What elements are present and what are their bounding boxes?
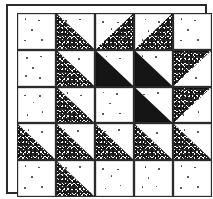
fabric-dots <box>18 51 55 86</box>
quilt-triangle-solid <box>134 87 173 124</box>
quilt-cell <box>56 123 95 160</box>
quilt-cell <box>56 50 95 87</box>
quilt-cell <box>173 123 212 160</box>
quilt-cell <box>134 87 173 124</box>
quilt-cell <box>173 50 212 87</box>
quilt-cell <box>134 123 173 160</box>
fabric-dots <box>174 14 211 49</box>
quilt-outer-frame <box>6 4 207 194</box>
quilt-triangle-stipple <box>56 50 95 87</box>
quilt-cell <box>95 123 134 160</box>
quilt-triangle-stipple <box>95 123 134 160</box>
quilt-cell <box>95 87 134 124</box>
quilt-cell <box>17 160 56 197</box>
quilt-cell <box>17 13 56 50</box>
quilt-triangle-solid <box>134 50 173 87</box>
quilt-cell <box>17 123 56 160</box>
quilt-triangle-solid <box>95 50 134 87</box>
quilt-block-figure <box>0 0 213 199</box>
fabric-dots <box>18 161 55 196</box>
fabric-dots <box>96 161 133 196</box>
quilt-triangle-stipple <box>17 123 56 160</box>
quilt-triangle-stipple <box>134 13 173 50</box>
quilt-cell <box>173 13 212 50</box>
quilt-cell <box>56 160 95 197</box>
fabric-dots <box>96 88 133 123</box>
quilt-cell <box>134 160 173 197</box>
quilt-cell <box>56 13 95 50</box>
quilt-cell <box>134 50 173 87</box>
quilt-triangle-stipple <box>56 160 95 197</box>
quilt-cell <box>17 50 56 87</box>
quilt-cell <box>17 87 56 124</box>
quilt-cell <box>173 87 212 124</box>
quilt-cell <box>56 87 95 124</box>
quilt-triangle-stipple <box>173 50 212 87</box>
quilt-triangle-stipple <box>56 13 95 50</box>
quilt-triangle-stipple <box>173 87 212 124</box>
quilt-cell <box>134 13 173 50</box>
quilt-triangle-stipple <box>56 87 95 124</box>
fabric-dots <box>174 161 211 196</box>
quilt-grid <box>17 13 212 197</box>
quilt-cell <box>173 160 212 197</box>
quilt-cell <box>95 13 134 50</box>
quilt-cell <box>95 50 134 87</box>
quilt-triangle-stipple <box>134 123 173 160</box>
quilt-triangle-stipple <box>56 123 95 160</box>
quilt-cell <box>95 160 134 197</box>
fabric-dots <box>18 14 55 49</box>
quilt-triangle-stipple <box>173 123 212 160</box>
fabric-dots <box>18 88 55 123</box>
fabric-dots <box>135 161 172 196</box>
quilt-triangle-stipple <box>95 13 134 50</box>
